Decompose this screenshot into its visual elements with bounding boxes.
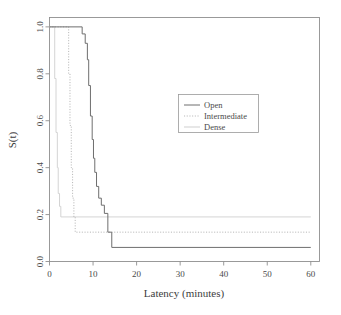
x-axis-ticks: 0102030405060 bbox=[47, 262, 316, 279]
x-tick-label: 30 bbox=[176, 269, 186, 279]
legend: OpenIntermediateDense bbox=[179, 95, 259, 133]
curve-open bbox=[50, 27, 311, 248]
x-tick-label: 0 bbox=[47, 269, 52, 279]
y-axis-ticks: 0.00.20.40.60.81.0 bbox=[35, 21, 50, 267]
plot-frame bbox=[50, 18, 320, 262]
y-tick-label: 0.8 bbox=[35, 68, 45, 80]
x-tick-label: 60 bbox=[306, 269, 316, 279]
y-axis-title: S(t) bbox=[6, 131, 19, 148]
y-tick-label: 0.0 bbox=[35, 255, 45, 267]
x-tick-label: 10 bbox=[89, 269, 99, 279]
legend-label-open: Open bbox=[204, 100, 223, 110]
plot-canvas: 0.00.20.40.60.81.0 0102030405060 Latency… bbox=[0, 0, 341, 315]
x-axis-title: Latency (minutes) bbox=[144, 287, 225, 300]
x-tick-label: 50 bbox=[263, 269, 273, 279]
x-tick-label: 40 bbox=[219, 269, 229, 279]
legend-label-intermediate: Intermediate bbox=[204, 111, 247, 121]
y-tick-label: 0.4 bbox=[35, 162, 45, 174]
legend-label-dense: Dense bbox=[204, 122, 225, 132]
x-tick-label: 20 bbox=[132, 269, 142, 279]
y-tick-label: 0.2 bbox=[35, 209, 45, 220]
data-curves bbox=[50, 27, 311, 248]
survival-curve-figure: 0.00.20.40.60.81.0 0102030405060 Latency… bbox=[0, 0, 341, 315]
y-tick-label: 0.6 bbox=[35, 115, 45, 127]
y-tick-label: 1.0 bbox=[35, 21, 45, 33]
